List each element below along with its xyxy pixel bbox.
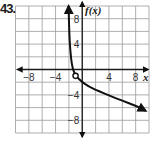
y-axis-label: f(x) (85, 4, 102, 17)
axes (18, 2, 149, 137)
x-tick-label: 4 (106, 72, 112, 83)
y-tick-label: −4 (68, 90, 80, 101)
open-circle-icon (73, 73, 78, 78)
open-circle-point (73, 73, 78, 78)
function-graph: −8−44884−4−8 f(x) x (0, 0, 155, 144)
x-tick-label: −4 (50, 72, 62, 83)
x-tick-label: 8 (133, 72, 139, 83)
x-axis-label: x (142, 71, 149, 83)
x-tick-label: −8 (23, 72, 35, 83)
y-tick-label: 4 (74, 39, 80, 50)
y-tick-label: 8 (74, 14, 80, 25)
y-tick-label: −8 (68, 115, 80, 126)
